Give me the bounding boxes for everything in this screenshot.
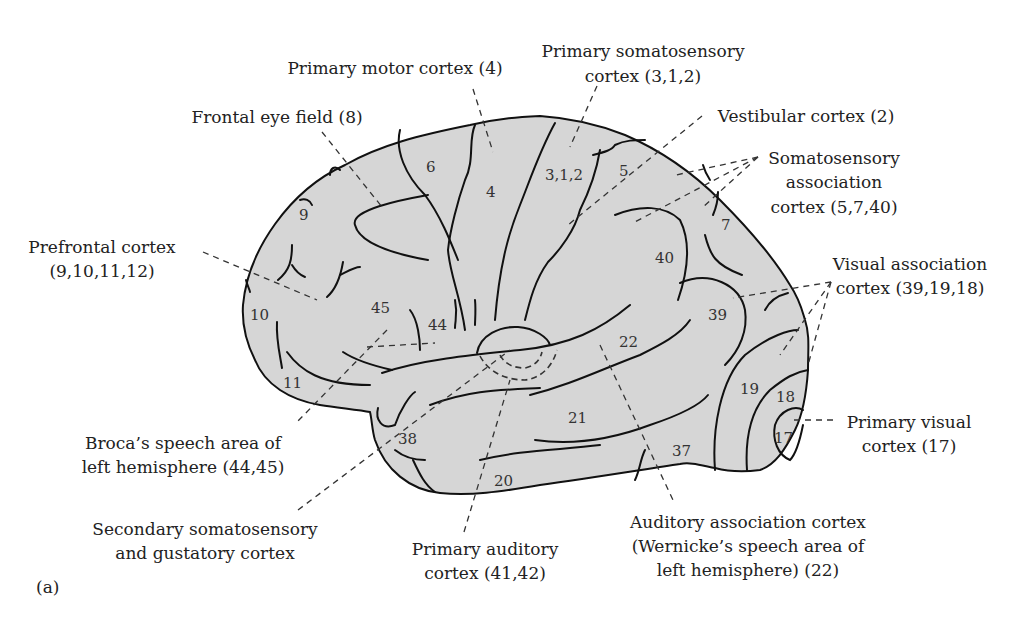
area-17: 17 [774,429,793,447]
label-prefrontal-cortex-line1: Prefrontal cortex [28,237,176,257]
brain-outline [243,116,809,494]
label-somatosensory-association-line2: association [786,172,882,192]
area-37: 37 [672,442,691,460]
label-primary-visual-line1: Primary visual [847,412,972,432]
label-visual-association-line1: Visual association [832,254,987,274]
area-4: 4 [486,183,496,201]
label-vestibular-cortex: Vestibular cortex (2) [717,106,895,126]
label-prefrontal-cortex-line2: (9,10,11,12) [49,261,154,281]
area-21: 21 [568,409,587,427]
label-somatosensory-association-line3: cortex (5,7,40) [770,197,897,217]
label-primary-auditory-line2: cortex (41,42) [424,563,546,583]
area-19: 19 [740,380,759,398]
label-auditory-association-line3: left hemisphere) (22) [657,560,839,580]
area-3-1-2: 3,1,2 [545,166,583,184]
area-39: 39 [708,306,727,324]
label-primary-visual-line2: cortex (17) [862,436,957,456]
label-frontal-eye-field: Frontal eye field (8) [191,107,362,127]
brain-diagram: 6 4 3,1,2 5 9 7 40 39 10 45 44 22 11 19 … [0,0,1029,628]
label-visual-association-line2: cortex (39,19,18) [836,278,985,298]
area-18: 18 [776,388,795,406]
label-secondary-somatosensory-line1: Secondary somatosensory [92,519,318,539]
area-40: 40 [655,249,674,267]
area-45: 45 [371,299,390,317]
area-7: 7 [721,216,731,234]
label-secondary-somatosensory-line2: and gustatory cortex [115,543,295,563]
label-somatosensory-association-line1: Somatosensory [768,148,900,168]
label-broca-line2: left hemisphere (44,45) [82,457,285,477]
panel-label: (a) [36,577,59,597]
area-22: 22 [619,333,638,351]
area-5: 5 [619,162,629,180]
label-primary-somatosensory-line2: cortex (3,1,2) [585,66,701,86]
area-20: 20 [494,472,513,490]
label-auditory-association-line1: Auditory association cortex [629,512,866,532]
area-10: 10 [250,306,269,324]
area-11: 11 [283,374,302,392]
label-primary-somatosensory-line1: Primary somatosensory [541,41,744,61]
area-6: 6 [426,158,436,176]
area-44: 44 [428,316,447,334]
area-9: 9 [299,206,309,224]
label-broca-line1: Broca’s speech area of [85,433,283,453]
label-primary-auditory-line1: Primary auditory [412,539,559,559]
label-primary-motor-cortex: Primary motor cortex (4) [287,58,502,78]
area-38: 38 [398,430,417,448]
label-auditory-association-line2: (Wernicke’s speech area of [632,536,866,556]
